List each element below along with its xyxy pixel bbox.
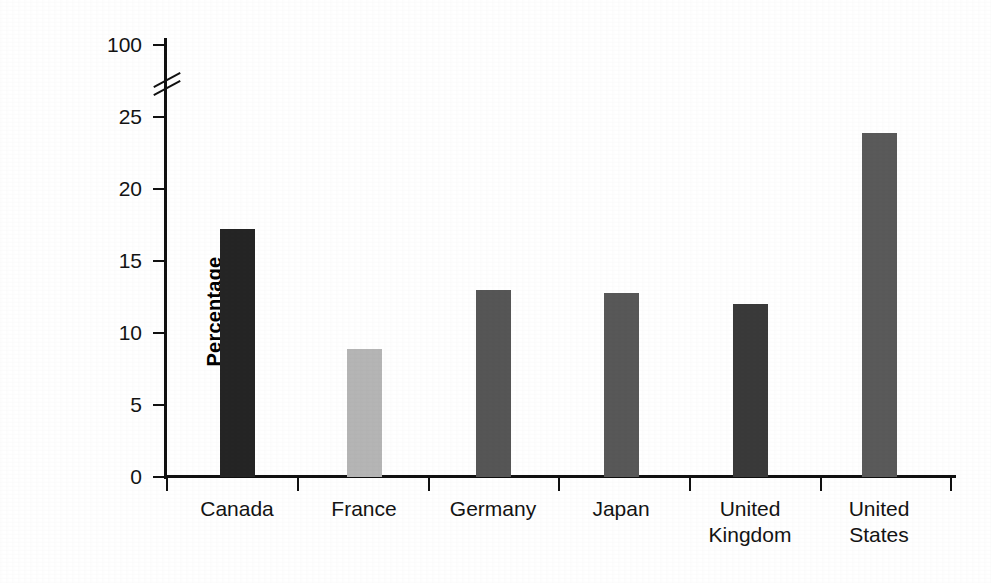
x-axis-tick bbox=[558, 478, 560, 491]
x-axis-tick bbox=[689, 478, 691, 491]
bar-france bbox=[347, 349, 382, 477]
x-axis-label-united-kingdom: United Kingdom bbox=[675, 496, 825, 548]
x-axis-tick bbox=[428, 478, 430, 491]
bar-canada bbox=[220, 229, 255, 477]
bar-chart: Percentage 0510152025100 CanadaFranceGer… bbox=[0, 0, 991, 583]
bar-united-kingdom bbox=[733, 304, 768, 477]
x-axis-label-japan: Japan bbox=[546, 496, 696, 522]
bar-germany bbox=[476, 290, 511, 477]
x-axis-label-united-states: United States bbox=[804, 496, 954, 548]
x-axis-tick bbox=[950, 478, 952, 491]
x-axis-tick bbox=[297, 478, 299, 491]
x-axis-tick bbox=[166, 478, 168, 491]
bar-japan bbox=[604, 293, 639, 477]
bars-layer bbox=[0, 38, 991, 477]
x-axis-tick bbox=[820, 478, 822, 491]
x-axis-label-france: France bbox=[289, 496, 439, 522]
bar-united-states bbox=[862, 133, 897, 477]
